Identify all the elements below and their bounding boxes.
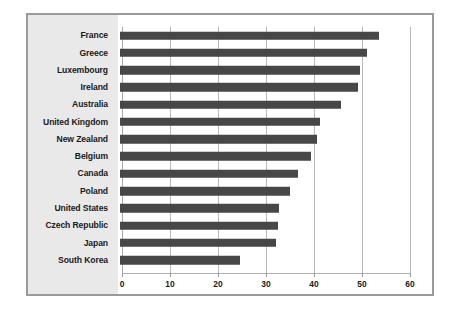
category-label-czech-republic: Czech Republic	[28, 221, 116, 230]
bar-row: Poland	[28, 182, 432, 199]
chart-figure: FranceGreeceLuxembourgIrelandAustraliaUn…	[26, 13, 434, 296]
tick-mark-30	[266, 273, 267, 277]
bar-row: Luxembourg	[28, 62, 432, 79]
bar-row: Belgium	[28, 148, 432, 165]
bar-track	[116, 148, 432, 165]
bar-row: United Kingdom	[28, 113, 432, 130]
tick-mark-0	[122, 273, 123, 277]
bar-track	[116, 79, 432, 96]
category-label-poland: Poland	[28, 187, 116, 196]
bar-france	[120, 31, 379, 40]
tick-label-40: 40	[309, 280, 318, 288]
tick-label-60: 60	[405, 280, 414, 288]
bar-row: Czech Republic	[28, 217, 432, 234]
bar-row: United States	[28, 200, 432, 217]
bar-track	[116, 27, 432, 44]
category-label-belgium: Belgium	[28, 152, 116, 161]
bar-track	[116, 62, 432, 79]
bar-row: New Zealand	[28, 131, 432, 148]
bar-track	[116, 113, 432, 130]
bar-row: France	[28, 27, 432, 44]
category-label-ireland: Ireland	[28, 83, 116, 92]
category-label-greece: Greece	[28, 49, 116, 58]
bar-row: Japan	[28, 234, 432, 251]
bar-belgium	[120, 152, 311, 161]
tick-label-20: 20	[213, 280, 222, 288]
bar-track	[116, 96, 432, 113]
bar-track	[116, 200, 432, 217]
bar-australia	[120, 100, 341, 109]
bar-track	[116, 131, 432, 148]
tick-label-10: 10	[165, 280, 174, 288]
bar-canada	[120, 170, 298, 179]
bar-united-states	[120, 204, 279, 213]
category-label-south-korea: South Korea	[28, 256, 116, 265]
bar-greece	[120, 49, 367, 58]
bar-track	[116, 217, 432, 234]
tick-mark-40	[314, 273, 315, 277]
tick-mark-20	[218, 273, 219, 277]
category-label-united-states: United States	[28, 204, 116, 213]
bar-luxembourg	[120, 66, 360, 75]
bar-row: Ireland	[28, 79, 432, 96]
bar-new-zealand	[120, 135, 317, 144]
tick-mark-60	[410, 273, 411, 277]
bar-track	[116, 165, 432, 182]
category-label-japan: Japan	[28, 239, 116, 248]
tick-mark-50	[362, 273, 363, 277]
bar-japan	[120, 239, 276, 248]
category-label-luxembourg: Luxembourg	[28, 66, 116, 75]
bar-track	[116, 251, 432, 268]
category-label-united-kingdom: United Kingdom	[28, 118, 116, 127]
bar-track	[116, 182, 432, 199]
bar-row: Greece	[28, 44, 432, 61]
bar-track	[116, 234, 432, 251]
bar-czech-republic	[120, 221, 278, 230]
bar-united-kingdom	[120, 118, 320, 127]
bar-track	[116, 44, 432, 61]
tick-mark-10	[170, 273, 171, 277]
bar-rows: FranceGreeceLuxembourgIrelandAustraliaUn…	[28, 27, 432, 269]
tick-label-0: 0	[120, 280, 125, 288]
tick-label-30: 30	[261, 280, 270, 288]
category-label-canada: Canada	[28, 169, 116, 178]
category-label-australia: Australia	[28, 100, 116, 109]
category-label-france: France	[28, 31, 116, 40]
bar-row: Australia	[28, 96, 432, 113]
bar-south-korea	[120, 256, 240, 265]
bar-row: South Korea	[28, 251, 432, 268]
category-label-new-zealand: New Zealand	[28, 135, 116, 144]
bar-row: Canada	[28, 165, 432, 182]
bar-poland	[120, 187, 290, 196]
bar-ireland	[120, 83, 358, 92]
tick-label-50: 50	[357, 280, 366, 288]
